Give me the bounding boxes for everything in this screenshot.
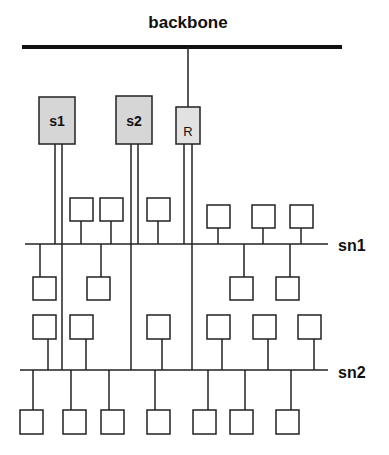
server-s1: s1 <box>39 97 75 144</box>
subnet-sn1-label: sn1 <box>338 237 366 254</box>
sn2-hosts-below <box>20 370 299 434</box>
server-s2-label: s2 <box>126 113 142 129</box>
server-s1-label: s1 <box>49 113 65 129</box>
network-diagram: backbone sn1 sn2 s1 s2 R <box>0 0 389 455</box>
router-r: R <box>176 107 200 144</box>
backbone-label: backbone <box>148 13 227 32</box>
sn1-hosts-below <box>33 244 299 300</box>
sn2-hosts-above <box>33 315 321 370</box>
router-r-label: R <box>183 124 192 139</box>
server-s2: s2 <box>116 96 152 144</box>
subnet-sn2-label: sn2 <box>338 364 366 381</box>
